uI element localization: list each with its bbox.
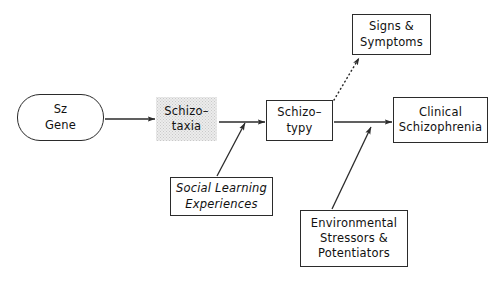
node-social-learning-experiences[interactable]: Social Learning Experiences bbox=[170, 177, 273, 216]
node-environmental-line2: Stressors & bbox=[320, 231, 388, 246]
node-sz-gene-line1: Sz bbox=[54, 102, 68, 117]
node-schizotaxia-line2: taxia bbox=[172, 119, 202, 134]
node-schizotypy[interactable]: Schizo– typy bbox=[266, 100, 333, 141]
edge-schizotypy-to-signs-symptoms bbox=[334, 58, 359, 100]
node-sz-gene-line2: Gene bbox=[45, 118, 76, 133]
node-signs-symptoms-line2: Symptoms bbox=[360, 35, 423, 50]
node-environmental-stressors[interactable]: Environmental Stressors & Potentiators bbox=[300, 210, 408, 267]
node-schizotypy-line1: Schizo– bbox=[277, 105, 321, 120]
node-social-learning-line2: Experiences bbox=[185, 197, 257, 212]
node-schizotaxia[interactable]: Schizo– taxia bbox=[156, 97, 217, 141]
node-signs-symptoms[interactable]: Signs & Symptoms bbox=[352, 14, 431, 55]
node-clinical-schizophrenia-line1: Clinical bbox=[419, 105, 462, 120]
edge-environmental-to-clinical-path bbox=[332, 127, 371, 209]
node-sz-gene[interactable]: Sz Gene bbox=[17, 94, 104, 141]
node-clinical-schizophrenia[interactable]: Clinical Schizophrenia bbox=[393, 97, 488, 143]
node-signs-symptoms-line1: Signs & bbox=[369, 19, 414, 34]
node-environmental-line1: Environmental bbox=[311, 216, 397, 231]
edge-social-learning-to-schizotaxia-path bbox=[217, 123, 245, 176]
node-social-learning-line1: Social Learning bbox=[176, 181, 267, 196]
node-environmental-line3: Potentiators bbox=[318, 246, 390, 261]
node-schizotypy-line2: typy bbox=[286, 121, 312, 136]
node-schizotaxia-line1: Schizo– bbox=[164, 104, 208, 119]
node-clinical-schizophrenia-line2: Schizophrenia bbox=[399, 120, 482, 135]
diagram-canvas: Sz Gene Schizo– taxia Schizo– typy Clini… bbox=[0, 0, 500, 282]
